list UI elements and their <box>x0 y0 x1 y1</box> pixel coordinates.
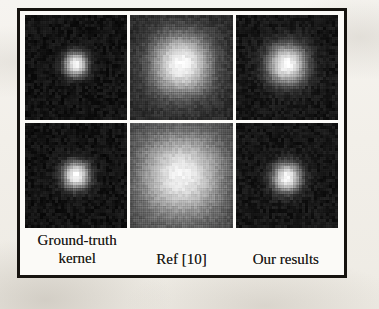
column-label-line1: Ground-truth <box>38 232 117 248</box>
kernel-panel-ref10-1 <box>130 15 232 120</box>
column-label-ground-truth-kernel: Ground-truth kernel <box>25 231 129 267</box>
column-label-line1: Ref [10] <box>156 251 206 267</box>
kernel-panel-grid <box>25 15 338 228</box>
kernel-blob <box>236 123 338 228</box>
column-label-row: Ground-truth kernel Ref [10] Our results <box>25 231 338 271</box>
kernel-blob <box>130 123 232 228</box>
kernel-panel-ref10-2 <box>130 123 232 228</box>
column-label-line1: Our results <box>253 251 319 267</box>
kernel-blob <box>130 15 232 120</box>
column-label-our-results: Our results <box>234 231 338 268</box>
kernel-panel-ourresults-1 <box>236 15 338 120</box>
kernel-panel-ourresults-2 <box>236 123 338 228</box>
figure-screenshot: Ground-truth kernel Ref [10] Our results <box>0 0 379 309</box>
kernel-panel-groundtruth-1 <box>25 15 127 120</box>
kernel-blob <box>25 123 127 228</box>
kernel-blob <box>25 15 127 120</box>
column-label-ref-10: Ref [10] <box>129 231 233 268</box>
kernel-blob <box>236 15 338 120</box>
kernel-panel-groundtruth-2 <box>25 123 127 228</box>
column-label-line2: kernel <box>25 249 129 267</box>
